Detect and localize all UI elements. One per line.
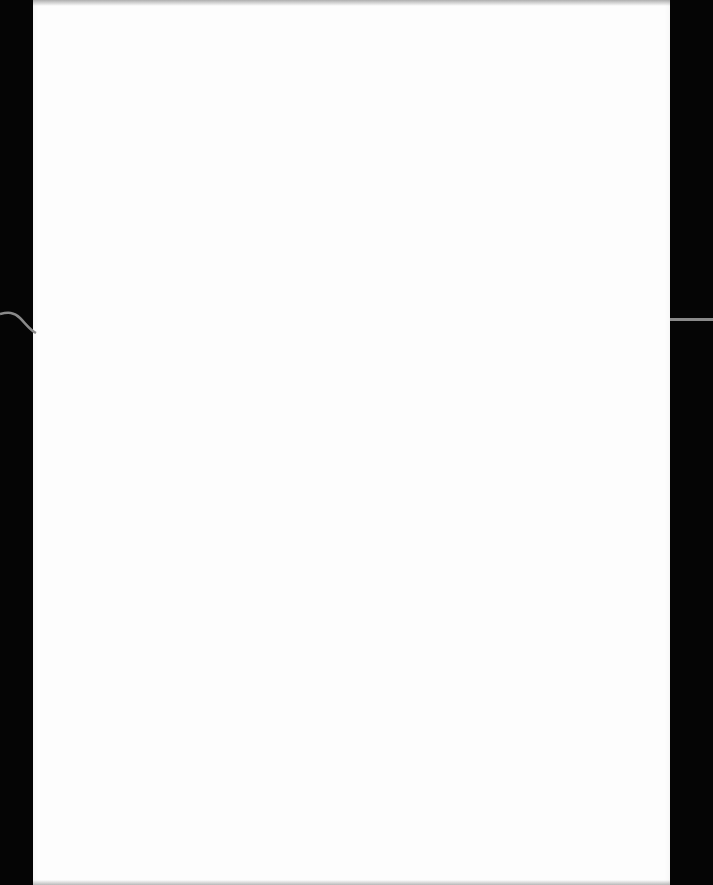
blank-paper-sheet — [33, 0, 670, 885]
photo-scene: Blank white sheet of paper photographed … — [0, 0, 713, 885]
cable-right — [670, 318, 713, 321]
paper-bottom-edge-shadow — [33, 880, 670, 885]
cable-left — [0, 300, 40, 340]
scene-description: Blank white sheet of paper photographed … — [0, 0, 1, 1]
paper-top-edge-shadow — [33, 0, 670, 6]
